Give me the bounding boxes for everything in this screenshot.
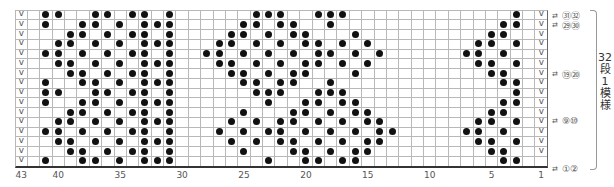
grid-cell xyxy=(374,117,387,127)
grid-cell xyxy=(461,49,474,59)
grid-cell xyxy=(114,98,127,108)
grid-cell xyxy=(424,147,437,157)
grid-cell xyxy=(176,156,189,166)
grid-cell xyxy=(362,49,375,59)
purl-dot-icon xyxy=(154,60,161,67)
grid-cell xyxy=(523,30,536,40)
grid-cell xyxy=(151,127,164,137)
grid-cell xyxy=(52,59,65,69)
grid-cell xyxy=(300,69,313,79)
purl-dot-icon xyxy=(302,148,309,155)
grid-cell xyxy=(250,39,263,49)
purl-dot-icon xyxy=(290,21,297,28)
grid-cell xyxy=(102,137,115,147)
purl-dot-icon xyxy=(55,118,62,125)
grid-cell xyxy=(164,10,177,20)
purl-dot-icon xyxy=(92,21,99,28)
purl-dot-icon xyxy=(364,60,371,67)
purl-dot-icon xyxy=(463,128,470,135)
grid-cell xyxy=(188,127,201,137)
grid-cell xyxy=(213,78,226,88)
direction-arrows-icon: ⇄ xyxy=(550,118,560,124)
column-number-label: 30 xyxy=(176,170,187,180)
purl-dot-icon xyxy=(500,70,507,77)
purl-dot-icon xyxy=(364,148,371,155)
grid-cell xyxy=(77,69,90,79)
grid-cell xyxy=(473,49,486,59)
grid-cell xyxy=(287,30,300,40)
grid-cell xyxy=(89,59,102,69)
grid-cell xyxy=(52,98,65,108)
purl-dot-icon xyxy=(475,128,482,135)
purl-dot-icon xyxy=(277,60,284,67)
knitting-chart: vvvvvvvvvvvvvvvvvvvvvvvvvvvvvvv xyxy=(15,10,547,166)
grid-cell xyxy=(40,78,53,88)
grid-cell xyxy=(510,69,523,79)
grid-cell xyxy=(362,127,375,137)
grid-cell xyxy=(349,20,362,30)
grid-cell xyxy=(139,78,152,88)
grid-cell xyxy=(399,108,412,118)
purl-dot-icon xyxy=(339,138,346,145)
grid-cell xyxy=(151,98,164,108)
purl-dot-icon xyxy=(277,138,284,145)
slip-stitch-icon: v xyxy=(538,10,543,18)
purl-dot-icon xyxy=(513,60,520,67)
direction-arrows-icon: ⇄ xyxy=(550,22,560,28)
grid-cell xyxy=(287,117,300,127)
grid-cell xyxy=(263,127,276,137)
grid-cell xyxy=(411,117,424,127)
grid-cell xyxy=(238,49,251,59)
grid-cell xyxy=(65,156,78,166)
grid-cell xyxy=(27,30,40,40)
grid-cell xyxy=(65,49,78,59)
grid-cell xyxy=(337,88,350,98)
grid-cell xyxy=(473,137,486,147)
grid-cell xyxy=(65,78,78,88)
purl-dot-icon xyxy=(488,118,495,125)
grid-cell xyxy=(126,39,139,49)
grid-cell xyxy=(176,10,189,20)
grid-cell xyxy=(275,137,288,147)
purl-dot-icon xyxy=(315,89,322,96)
purl-dot-icon xyxy=(55,128,62,135)
grid-cell xyxy=(287,156,300,166)
grid-cell xyxy=(312,137,325,147)
grid-cell xyxy=(151,156,164,166)
grid-cell xyxy=(362,30,375,40)
grid-cell xyxy=(250,108,263,118)
grid-cell xyxy=(337,78,350,88)
grid-cell xyxy=(424,127,437,137)
grid-cell xyxy=(510,78,523,88)
grid-cell xyxy=(275,88,288,98)
purl-dot-icon xyxy=(302,128,309,135)
grid-cell xyxy=(510,20,523,30)
purl-dot-icon xyxy=(277,89,284,96)
purl-dot-icon xyxy=(154,138,161,145)
purl-dot-icon xyxy=(79,157,86,164)
grid-cell xyxy=(386,39,399,49)
grid-cell xyxy=(275,59,288,69)
grid-cell xyxy=(65,59,78,69)
grid-cell xyxy=(238,137,251,147)
grid-cell xyxy=(424,69,437,79)
grid-cell xyxy=(275,117,288,127)
direction-arrows-icon: ⇄ xyxy=(550,71,560,77)
grid-cell xyxy=(238,156,251,166)
grid-cell xyxy=(275,127,288,137)
purl-dot-icon xyxy=(364,138,371,145)
grid-cell xyxy=(139,10,152,20)
grid-cell xyxy=(325,10,338,20)
purl-dot-icon xyxy=(67,40,74,47)
grid-cell xyxy=(399,30,412,40)
grid-cell xyxy=(126,156,139,166)
purl-dot-icon xyxy=(315,40,322,47)
grid-cell xyxy=(374,108,387,118)
grid-cell xyxy=(250,88,263,98)
grid-cell xyxy=(263,10,276,20)
purl-dot-icon xyxy=(277,21,284,28)
grid-cell xyxy=(362,39,375,49)
grid-cell xyxy=(461,78,474,88)
slip-stitch-icon: v xyxy=(18,98,23,106)
grid-cell xyxy=(139,98,152,108)
